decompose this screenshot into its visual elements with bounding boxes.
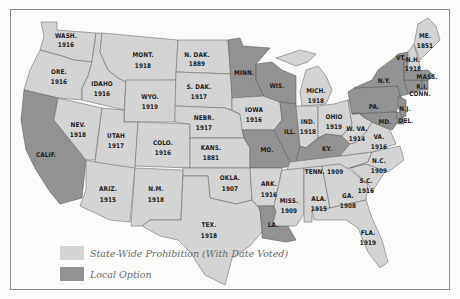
legend-swatch-statewide [60, 246, 84, 260]
label-ind: IND. [301, 118, 315, 126]
label-ohio: OHIO [325, 113, 342, 121]
label-nh-year: 1918 [405, 65, 421, 73]
state-wyo [124, 80, 176, 122]
label-ala: ALA. [311, 195, 326, 203]
label-ga: GA. [342, 192, 354, 200]
legend-item-local: Local Option [60, 265, 288, 283]
label-sdak-year: 1917 [191, 93, 207, 101]
label-vt: VT. [396, 54, 406, 62]
label-nm: N.M. [148, 185, 163, 193]
label-utah-year: 1917 [108, 142, 124, 150]
label-me-year: 1851 [417, 42, 433, 50]
label-ill: ILL. [284, 128, 296, 136]
label-wash-year: 1916 [58, 41, 74, 49]
label-ariz: ARIZ. [99, 185, 117, 193]
label-pa: PA. [369, 103, 380, 111]
label-nebr: NEBR. [194, 114, 214, 122]
legend-swatch-local [60, 267, 84, 281]
legend-label-statewide: State-Wide Prohibition (With Date Voted) [90, 248, 288, 259]
label-mo: MO. [261, 146, 274, 154]
label-okla-year: 1907 [222, 185, 238, 193]
label-nc-year: 1909 [371, 167, 387, 175]
label-okla: OKLA. [220, 174, 240, 182]
label-ky: KY. [322, 145, 332, 153]
label-ny: N.Y. [378, 77, 391, 85]
label-ark-year: 1916 [261, 191, 277, 199]
legend-item-statewide: State-Wide Prohibition (With Date Voted) [60, 244, 288, 262]
label-wva: W. VA. [346, 125, 367, 133]
label-ore-year: 1916 [51, 78, 67, 86]
label-utah: UTAH [107, 132, 125, 140]
label-minn: MINN. [234, 69, 254, 77]
label-del: DEL. [399, 117, 414, 125]
label-tex-year: 1918 [201, 232, 217, 240]
label-tenn: TENN. 1909 [305, 168, 344, 176]
label-tenn-name: TENN. [305, 168, 325, 176]
label-ohio-year: 1919 [326, 123, 342, 131]
label-ark: ARK. [261, 180, 277, 188]
label-wyo-year: 1919 [142, 103, 158, 111]
label-calif: CALIF. [36, 151, 56, 159]
state-kans [190, 138, 250, 168]
label-mich-year: 1918 [308, 97, 324, 105]
label-nh: N.H. [406, 56, 420, 64]
label-ndak: N. DAK. [184, 51, 210, 59]
label-tex: TEX. [202, 221, 217, 229]
label-kans: KANS. [201, 144, 222, 152]
label-ind-year: 1918 [300, 128, 316, 136]
label-la: LA. [268, 221, 279, 229]
label-ariz-year: 1915 [100, 196, 116, 204]
label-tenn-year: 1909 [327, 168, 343, 176]
label-nev: NEV. [71, 121, 86, 129]
label-colo: COLO. [153, 139, 173, 147]
label-ga-year: 1908 [340, 202, 356, 210]
label-sdak: S. DAK. [187, 83, 212, 91]
label-me: ME. [419, 32, 431, 40]
label-ore: ORE. [51, 68, 67, 76]
label-miss: MISS. [280, 197, 299, 205]
label-ri: R.I. [416, 83, 427, 91]
label-wyo: WYO. [141, 93, 159, 101]
label-ala-year: 1915 [311, 205, 327, 213]
label-mass: MASS. [417, 73, 438, 81]
label-miss-year: 1909 [281, 207, 297, 215]
label-wash: WASH. [55, 32, 77, 40]
label-ndak-year: 1889 [189, 60, 205, 68]
label-sc: S.C. [359, 177, 372, 185]
label-conn: CONN. [409, 90, 430, 98]
label-nev-year: 1918 [70, 131, 86, 139]
label-fla-year: 1919 [360, 239, 376, 247]
label-mont-year: 1918 [135, 62, 151, 70]
label-va-year: 1916 [371, 143, 387, 151]
label-iowa: IOWA [245, 106, 263, 114]
label-colo-year: 1916 [155, 149, 171, 157]
label-nj: N.J. [399, 105, 411, 113]
label-nebr-year: 1917 [196, 124, 212, 132]
label-mich: MICH. [306, 87, 326, 95]
map-legend: State-Wide Prohibition (With Date Voted)… [60, 244, 288, 286]
label-md: MD. [379, 118, 392, 126]
label-sc-year: 1916 [358, 187, 374, 195]
legend-label-local: Local Option [90, 269, 152, 280]
label-fla: FLA. [361, 229, 376, 237]
label-va: VA. [373, 133, 384, 141]
label-iowa-year: 1916 [246, 116, 262, 124]
state-mich [276, 50, 316, 66]
label-kans-year: 1881 [203, 154, 219, 162]
label-idaho-year: 1916 [94, 90, 110, 98]
label-nm-year: 1918 [148, 196, 164, 204]
state-sdak [175, 72, 232, 110]
label-wis: WIS. [269, 82, 284, 90]
label-mont: MONT. [132, 51, 153, 59]
label-nc: N.C. [372, 157, 386, 165]
label-idaho: IDAHO [91, 80, 113, 88]
label-wva-year: 1914 [349, 135, 365, 143]
